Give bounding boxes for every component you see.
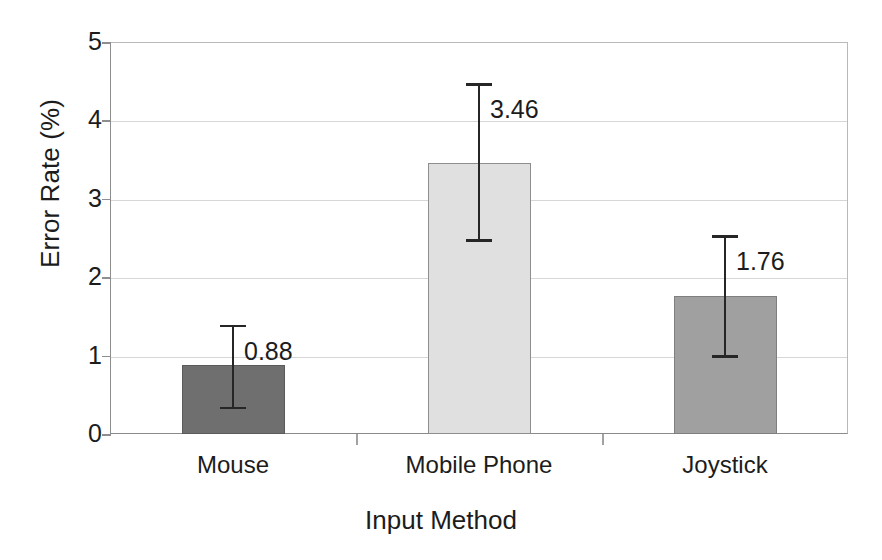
error-bar-cap-lower [712,355,738,357]
error-bar-cap-lower [466,239,492,241]
error-bar-cap-lower [220,407,246,409]
y-axis-tick-mark [102,42,111,44]
x-axis-title: Input Method [0,505,882,536]
x-axis-tick-mark [356,434,358,445]
y-axis-tick-mark [102,199,111,201]
bar-chart: Error Rate (%) 012345 0.883.461.76 Input… [0,0,882,560]
y-axis-tick-mark [102,356,111,358]
x-axis-tick-label: Mouse [110,452,356,478]
data-label-mobile-phone: 3.46 [490,97,539,122]
x-axis-tick-mark [602,434,604,445]
error-bar-line [478,84,480,240]
error-bar-cap-upper [466,83,492,85]
x-axis-tick-label: Joystick [602,452,848,478]
y-axis-tick-mark [102,434,111,436]
error-bar-cap-upper [220,325,246,327]
data-label-mouse: 0.88 [244,339,293,364]
error-bar-cap-upper [712,235,738,237]
y-axis-tick-mark [102,120,111,122]
data-label-joystick: 1.76 [736,249,785,274]
error-bar-line [232,326,234,408]
x-axis-tick-label: Mobile Phone [356,452,602,478]
error-bar-line [724,236,726,356]
y-axis-tick-mark [102,277,111,279]
